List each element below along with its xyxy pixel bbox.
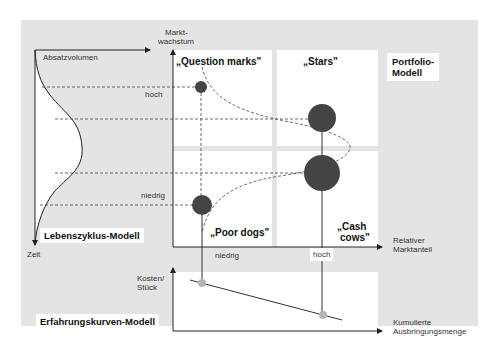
portfolio-dashed-curve [202,67,350,232]
poor-dog-circle [192,195,212,215]
y-tick-low: niedrig [141,191,165,200]
market-growth-label-2: wachstum [158,37,194,46]
portfolio-model-title: Portfolio- Modell [387,53,439,81]
portfolio-title-line-2: Modell [392,67,434,78]
lifecycle-y-axis-label: Absatzvolumen [43,53,98,62]
relative-market-share-label-1: Relativer [393,236,425,245]
quadrant-stars: „Stars" [303,56,338,67]
lifecycle-curve-fill [35,50,82,245]
quadrant-poor-dogs: „Poor dogs" [210,227,269,238]
experience-marker-high [319,311,327,319]
portfolio-title-line-1: Portfolio- [392,56,434,67]
market-growth-label-1: Markt- [165,28,188,37]
cash-cow-circle [304,155,340,191]
y-tick-high: hoch [145,90,162,99]
experience-curve-model-title: Erfahrungskurven-Modell [36,314,159,329]
relative-market-share-label-2: Marktanteil [393,245,432,254]
lifecycle-x-axis-label: Zeit [27,250,40,259]
lifecycle-model-title: Lebenszyklus-Modell [40,228,144,243]
cumulative-output-label-2: Ausbringungsmenge [393,327,466,336]
quadrant-cash-cows-1: „Cash [337,221,366,232]
x-tick-low: niedrig [215,251,239,260]
cost-per-unit-label-2: Stück [137,283,157,292]
cumulative-output-label-1: Kumulierte [393,318,431,327]
question-mark-circle [195,81,207,93]
cost-per-unit-label-1: Kosten/ [137,274,164,283]
star-circle [308,104,336,132]
x-tick-high: hoch [310,248,333,261]
quadrant-cash-cows-2: cows" [340,232,370,243]
experience-marker-low [198,279,206,287]
quadrant-question-marks: „Question marks" [176,56,261,67]
